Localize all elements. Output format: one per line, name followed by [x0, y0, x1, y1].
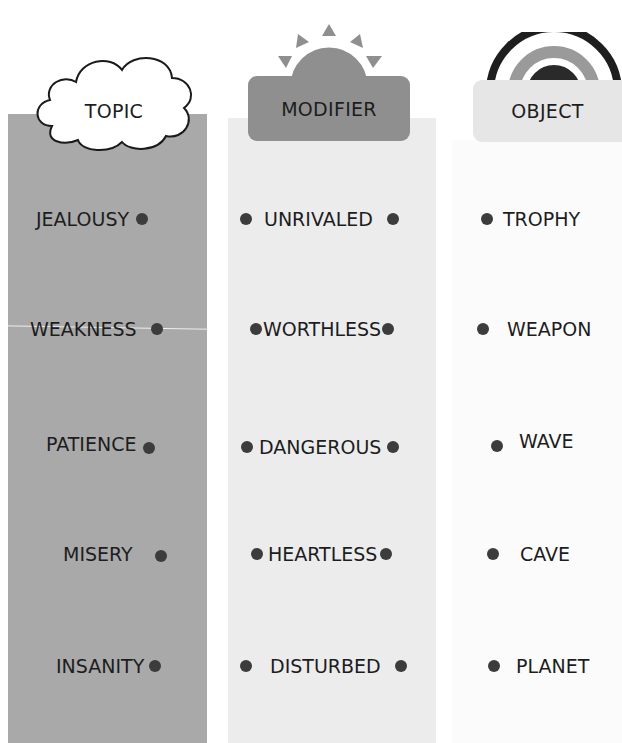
- bullet-dot-icon: [240, 660, 252, 672]
- bullet-dot-icon: [491, 440, 503, 452]
- bullet-dot-icon: [149, 660, 161, 672]
- object-item: PLANET: [488, 655, 589, 677]
- object-text: WEAPON: [507, 318, 591, 340]
- topic-item: JEALOUSY: [36, 208, 148, 230]
- topic-text: WEAKNESS: [30, 318, 137, 340]
- topic-item: MISERY: [63, 543, 167, 565]
- modifier-header: MODIFIER: [248, 76, 410, 141]
- bullet-dot-icon: [143, 442, 155, 454]
- modifier-text: DISTURBED: [270, 655, 381, 677]
- object-header-label: OBJECT: [511, 100, 583, 122]
- bullet-dot-icon: [250, 323, 262, 335]
- topic-text: JEALOUSY: [36, 208, 129, 230]
- bullet-dot-icon: [240, 213, 252, 225]
- modifier-header-label: MODIFIER: [281, 98, 377, 120]
- topic-item: WEAKNESS: [30, 318, 163, 340]
- topic-text: PATIENCE: [46, 433, 136, 455]
- bullet-dot-icon: [251, 548, 263, 560]
- bullet-dot-icon: [241, 441, 253, 453]
- modifier-text: WORTHLESS: [263, 318, 381, 340]
- object-text: PLANET: [516, 655, 589, 677]
- bullet-dot-icon: [487, 548, 499, 560]
- object-text: WAVE: [519, 430, 574, 452]
- bullet-dot-icon: [151, 323, 163, 335]
- bullet-dot-icon: [481, 213, 493, 225]
- object-header: OBJECT: [473, 80, 622, 142]
- bullet-dot-icon: [387, 441, 399, 453]
- topic-text: MISERY: [63, 543, 133, 565]
- bullet-dot-icon: [382, 323, 394, 335]
- bullet-dot-icon: [395, 660, 407, 672]
- object-item: CAVE: [487, 543, 570, 565]
- modifier-item: DISTURBED: [240, 655, 407, 677]
- modifier-item: UNRIVALED: [240, 208, 399, 230]
- bullet-dot-icon: [488, 660, 500, 672]
- modifier-text: DANGEROUS: [259, 436, 381, 458]
- bullet-dot-icon: [387, 213, 399, 225]
- modifier-text: UNRIVALED: [264, 208, 373, 230]
- modifier-text: HEARTLESS: [268, 543, 377, 565]
- object-text: CAVE: [520, 543, 570, 565]
- topic-header-label: TOPIC: [85, 100, 143, 122]
- modifier-item: WORTHLESS: [250, 318, 394, 340]
- topic-header: TOPIC: [30, 48, 198, 154]
- bullet-dot-icon: [155, 550, 167, 562]
- topic-item: PATIENCE: [46, 433, 155, 455]
- bullet-dot-icon: [477, 323, 489, 335]
- bullet-dot-icon: [136, 213, 148, 225]
- topic-item: INSANITY: [56, 655, 161, 677]
- object-text: TROPHY: [503, 208, 580, 230]
- bullet-dot-icon: [380, 548, 392, 560]
- modifier-item: DANGEROUS: [241, 436, 399, 458]
- object-item: TROPHY: [481, 208, 580, 230]
- object-item: WEAPON: [477, 318, 591, 340]
- object-item: WAVE: [491, 430, 574, 452]
- topic-text: INSANITY: [56, 655, 144, 677]
- modifier-item: HEARTLESS: [251, 543, 392, 565]
